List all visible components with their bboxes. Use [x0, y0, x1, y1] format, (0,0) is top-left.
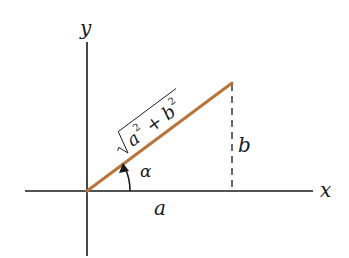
horizontal-leg-label-a: a	[154, 196, 166, 220]
hypotenuse-vector	[87, 83, 232, 191]
x-axis-label: x	[320, 178, 331, 202]
vertical-leg-label-b: b	[238, 133, 251, 157]
y-axis-label: y	[79, 16, 92, 40]
right-triangle-diagram: α y x a b a 2 + b 2	[0, 0, 349, 258]
angle-label-alpha: α	[140, 161, 152, 181]
